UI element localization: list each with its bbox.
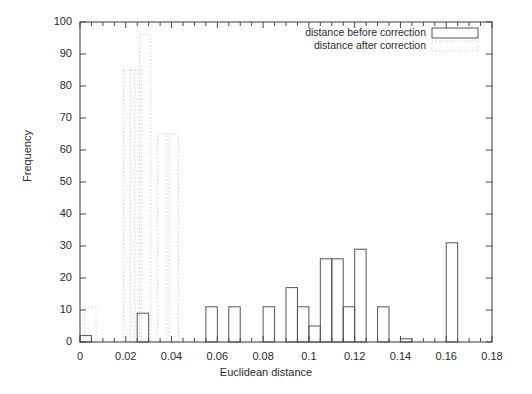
x-axis-label: Euclidean distance — [0, 366, 532, 378]
legend-label: distance before correction — [305, 26, 426, 38]
y-tick-label: 0 — [32, 335, 72, 347]
histogram-bar — [343, 307, 354, 342]
y-tick-label: 10 — [32, 303, 72, 315]
legend-label: distance after correction — [314, 39, 426, 51]
histogram-bar — [85, 307, 96, 342]
series-distance-after-correction — [85, 35, 179, 342]
y-tick-label: 90 — [32, 47, 72, 59]
histogram-bar — [446, 243, 457, 342]
y-tick-label: 40 — [32, 207, 72, 219]
y-tick-label: 30 — [32, 239, 72, 251]
y-tick-label: 70 — [32, 111, 72, 123]
histogram-bar — [332, 259, 343, 342]
histogram-bar — [263, 307, 274, 342]
histogram-bar — [80, 336, 91, 342]
histogram-bar — [309, 326, 320, 342]
x-tick-label: 0.18 — [462, 350, 522, 362]
plot-canvas — [0, 0, 532, 394]
y-tick-label: 100 — [32, 15, 72, 27]
legend-swatches — [432, 28, 478, 51]
histogram-bar — [378, 307, 389, 342]
histogram-bar — [130, 70, 141, 342]
histogram-bar — [140, 35, 151, 342]
histogram-bar — [229, 307, 240, 342]
histogram-figure: Frequency Euclidean distance 01020304050… — [0, 0, 532, 394]
histogram-bar — [123, 70, 134, 342]
y-tick-label: 80 — [32, 79, 72, 91]
series-distance-before-correction — [80, 243, 458, 342]
histogram-bar — [158, 134, 169, 342]
histogram-bar — [286, 288, 297, 342]
legend-swatch — [432, 41, 478, 51]
legend-swatch — [432, 28, 478, 38]
y-tick-label: 20 — [32, 271, 72, 283]
histogram-bar — [355, 249, 366, 342]
y-tick-label: 60 — [32, 143, 72, 155]
histogram-bar — [137, 313, 148, 342]
histogram-bar — [320, 259, 331, 342]
histogram-bar — [297, 307, 308, 342]
histogram-bar — [167, 134, 178, 342]
y-axis-label: Frequency — [21, 111, 33, 201]
histogram-bar — [206, 307, 217, 342]
y-tick-label: 50 — [32, 175, 72, 187]
